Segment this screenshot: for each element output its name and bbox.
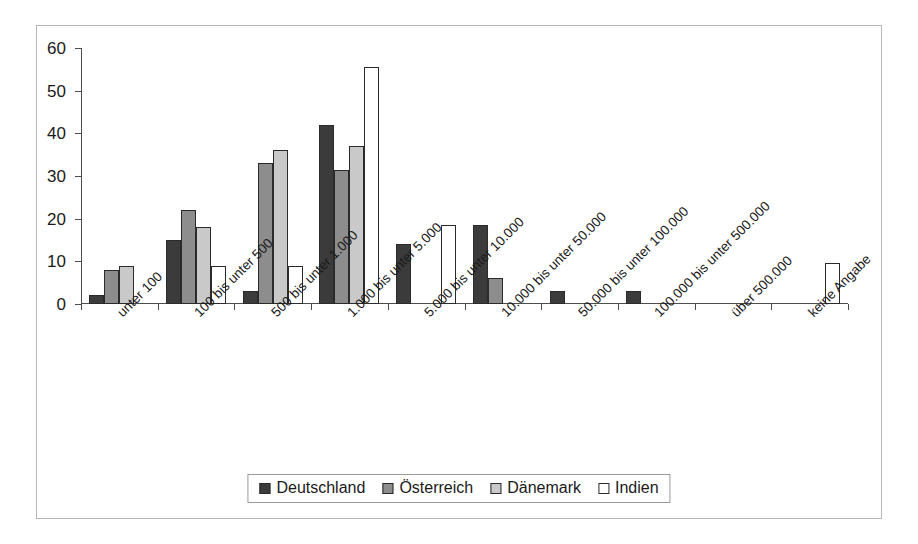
legend-item[interactable]: Indien — [598, 480, 659, 496]
y-tick-label: 50 — [47, 82, 66, 99]
bar — [89, 295, 104, 304]
bar — [258, 163, 273, 304]
legend-item[interactable]: Dänemark — [490, 480, 581, 496]
legend-swatch-icon — [598, 483, 609, 494]
chart-legend: DeutschlandÖsterreichDänemarkIndien — [247, 474, 670, 503]
y-tick-label: 40 — [47, 125, 66, 142]
bar — [488, 278, 503, 304]
legend-label: Dänemark — [507, 480, 581, 496]
bar — [626, 291, 641, 304]
chart-frame: 0102030405060 unter 100100 bis unter 500… — [36, 25, 882, 519]
bar-group — [158, 48, 235, 304]
x-tick — [848, 304, 849, 310]
bar — [243, 291, 258, 304]
legend-label: Indien — [615, 480, 659, 496]
legend-item[interactable]: Österreich — [382, 480, 473, 496]
y-tick-label: 60 — [47, 40, 66, 57]
y-tick-label: 30 — [47, 168, 66, 185]
bar — [349, 146, 364, 304]
y-tick-label: 10 — [47, 253, 66, 270]
legend-swatch-icon — [490, 483, 501, 494]
bar — [364, 67, 379, 304]
legend-label: Österreich — [399, 480, 473, 496]
bar — [550, 291, 565, 304]
legend-label: Deutschland — [276, 480, 365, 496]
bar — [273, 150, 288, 304]
bar — [166, 240, 181, 304]
y-tick-label: 0 — [57, 296, 66, 313]
bar-group — [81, 48, 158, 304]
legend-swatch-icon — [259, 483, 270, 494]
y-tick-label: 20 — [47, 210, 66, 227]
bar — [181, 210, 196, 304]
legend-item[interactable]: Deutschland — [259, 480, 365, 496]
x-axis-labels: unter 100100 bis unter 500500 bis unter … — [81, 310, 848, 460]
legend-swatch-icon — [382, 483, 393, 494]
bar — [104, 270, 119, 304]
